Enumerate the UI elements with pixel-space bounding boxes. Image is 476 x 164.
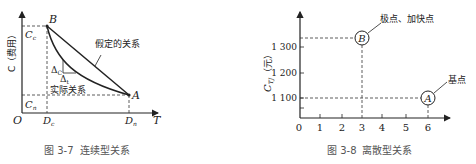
y-tick-label: 1 100 xyxy=(271,93,297,103)
x-tick-label: 4 xyxy=(379,122,385,133)
point-b-annotation: 极点、加快点 xyxy=(380,13,434,24)
point-a-label: A xyxy=(131,89,140,102)
assumed-relation-label: 假定的关系 xyxy=(95,38,140,49)
point-a-leader xyxy=(434,82,447,93)
x-tick-label: 5 xyxy=(403,122,409,133)
x-tick-label: 2 xyxy=(339,122,345,133)
x-tick-label: 3 xyxy=(359,122,365,133)
continuous-relation-chart: B A 假定的关系 实际关系 ΔC Δt Cc Cn O Dc Dn T C（费… xyxy=(6,12,162,156)
point-b-leader xyxy=(368,23,381,33)
y-axis-label-main: CTJ xyxy=(262,77,275,92)
point-a xyxy=(127,93,130,96)
assumed-leader xyxy=(95,55,101,66)
actual-relation-label: 实际关系 xyxy=(50,84,86,95)
point-b-label: B xyxy=(48,13,57,26)
x-tick-label: 1 xyxy=(317,122,323,133)
caption-fig-3-7-text: 连续型关系 xyxy=(80,144,130,156)
cc-label: Cc xyxy=(25,29,37,41)
dc-label: Dc xyxy=(42,115,55,127)
point-a-label: A xyxy=(423,93,431,104)
y-tick-label: 1 200 xyxy=(271,68,297,78)
figure-canvas: B A 假定的关系 实际关系 ΔC Δt Cc Cn O Dc Dn T C（费… xyxy=(0,0,476,164)
x-tick-label: 0 xyxy=(296,122,302,133)
x-tick-label: 6 xyxy=(425,122,431,133)
point-a-annotation: 基点 xyxy=(448,74,466,85)
origin-label: O xyxy=(13,114,22,127)
caption-fig-3-8-number: 图 3-8 xyxy=(327,145,357,156)
caption-fig-3-7-number: 图 3-7 xyxy=(44,145,74,156)
dn-label: Dn xyxy=(124,115,137,127)
y-tick-label: 1 300 xyxy=(271,42,297,52)
discrete-relation-chart: 1 300 1 200 1 100 0 1 2 3 4 5 6 B A 极点、加… xyxy=(262,12,466,156)
caption-fig-3-8-text: 离散型关系 xyxy=(362,144,412,156)
y-axis-label: C（费用） xyxy=(6,30,17,72)
delta-t-label: Δt xyxy=(60,74,70,85)
cn-label: Cn xyxy=(25,99,37,111)
y-axis-label-unit: （元） xyxy=(263,50,273,77)
x-axis-label: T xyxy=(153,114,162,127)
point-b-label: B xyxy=(357,33,365,44)
